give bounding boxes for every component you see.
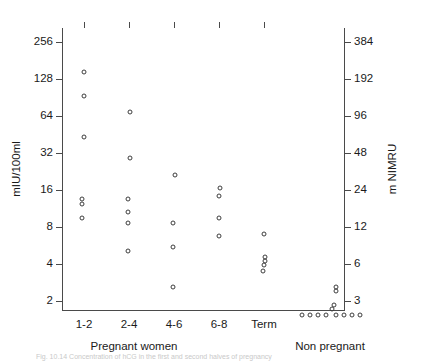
y-tick-left <box>56 153 62 154</box>
plot-area: 248163264128256 3612244896192384 1-22-44… <box>62 28 345 311</box>
x-tick-label: Term <box>251 318 277 330</box>
x-tick-label: 2-4 <box>121 318 138 330</box>
x-group-label: Non pregnant <box>295 340 365 352</box>
data-point <box>218 186 223 191</box>
data-point <box>126 209 131 214</box>
y-tick-label-right: 6 <box>354 258 360 270</box>
y-tick-label-left: 2 <box>47 295 53 307</box>
data-point <box>308 312 313 317</box>
y-tick-left <box>56 42 62 43</box>
data-point <box>80 196 85 201</box>
x-tick <box>219 22 220 28</box>
data-point <box>82 94 87 99</box>
y-tick-left <box>56 227 62 228</box>
y-tick-right <box>345 79 351 80</box>
data-point <box>217 233 222 238</box>
y-tick-label-left: 4 <box>47 258 53 270</box>
y-tick-label-right: 3 <box>354 295 360 307</box>
data-point <box>300 312 305 317</box>
x-tick-label: 6-8 <box>211 318 228 330</box>
data-point <box>171 245 176 250</box>
x-group-label: Pregnant women <box>91 340 178 352</box>
y-tick-label-left: 16 <box>40 184 53 196</box>
y-axis-left-title: mIU/100ml <box>10 141 22 197</box>
figure-container: 248163264128256 3612244896192384 1-22-44… <box>0 0 423 361</box>
y-tick-right <box>345 153 351 154</box>
y-tick-right <box>345 116 351 117</box>
data-point <box>324 312 329 317</box>
x-tick <box>129 22 130 28</box>
y-tick-right <box>345 227 351 228</box>
data-point <box>171 221 176 226</box>
data-point <box>316 312 321 317</box>
data-point <box>217 216 222 221</box>
data-point <box>334 312 339 317</box>
data-point <box>82 69 87 74</box>
y-tick-right <box>345 42 351 43</box>
y-tick-right <box>345 301 351 302</box>
data-point <box>82 135 87 140</box>
data-point <box>80 215 85 220</box>
data-point <box>128 109 133 114</box>
x-axis-line <box>62 310 345 311</box>
y-tick-label-right: 24 <box>354 184 367 196</box>
x-tick-label: 4-6 <box>166 318 183 330</box>
data-point <box>217 194 222 199</box>
y-tick-left <box>56 264 62 265</box>
data-point <box>171 284 176 289</box>
y-tick-right <box>345 264 351 265</box>
y-tick-left <box>56 190 62 191</box>
data-point <box>126 220 131 225</box>
data-point <box>330 307 335 312</box>
figure-caption: Fig. 10.14 Concentration of hCG in the f… <box>36 353 416 361</box>
y-tick-label-right: 48 <box>354 147 367 159</box>
x-tick <box>84 22 85 28</box>
data-point <box>358 312 363 317</box>
data-point <box>126 249 131 254</box>
y-tick-label-right: 192 <box>354 73 373 85</box>
y-axis-right-title: m NIMRU <box>386 144 398 194</box>
data-point <box>342 312 347 317</box>
data-point <box>262 232 267 237</box>
y-tick-left <box>56 116 62 117</box>
y-tick-label-left: 128 <box>34 73 53 85</box>
y-tick-label-left: 256 <box>34 36 53 48</box>
y-tick-right <box>345 190 351 191</box>
data-point <box>261 269 266 274</box>
y-tick-label-right: 96 <box>354 110 367 122</box>
x-tick-label: 1-2 <box>76 318 93 330</box>
data-point <box>334 289 339 294</box>
data-point <box>80 202 85 207</box>
data-point <box>350 312 355 317</box>
y-axis-left-line <box>62 28 63 311</box>
y-tick-label-left: 32 <box>40 147 53 159</box>
y-tick-label-right: 384 <box>354 36 373 48</box>
data-point <box>128 156 133 161</box>
y-tick-label-left: 64 <box>40 110 53 122</box>
y-tick-left <box>56 301 62 302</box>
y-tick-label-right: 12 <box>354 221 367 233</box>
y-tick-label-left: 8 <box>47 221 53 233</box>
data-point <box>262 263 267 268</box>
y-tick-left <box>56 79 62 80</box>
data-point <box>173 173 178 178</box>
x-tick <box>264 22 265 28</box>
y-axis-right-line <box>344 28 345 311</box>
x-tick <box>174 22 175 28</box>
data-point <box>126 196 131 201</box>
